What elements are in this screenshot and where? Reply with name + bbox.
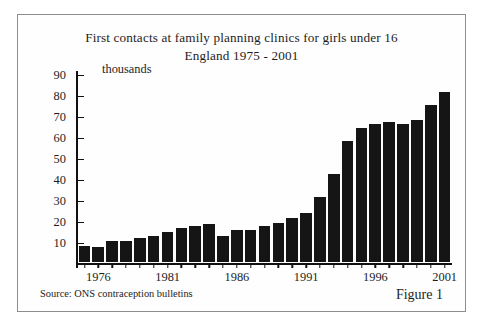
x-axis-tick <box>222 264 223 268</box>
bar <box>411 120 423 263</box>
x-axis-tick-label: 1996 <box>363 270 388 285</box>
bar <box>273 223 285 263</box>
bar <box>328 174 340 262</box>
y-axis-tick-label: 20 <box>54 215 66 230</box>
x-axis-tick-label: 1991 <box>294 270 319 285</box>
bar <box>176 228 188 263</box>
bar <box>203 224 215 263</box>
bar <box>342 141 354 263</box>
y-axis-tick-label: 80 <box>54 89 66 104</box>
x-axis-tick <box>153 264 154 268</box>
source-note: Source: ONS contraception bulletins <box>40 288 193 299</box>
x-axis-tick <box>416 264 417 268</box>
y-axis-tick-label: 70 <box>54 110 66 125</box>
bar <box>245 230 257 263</box>
plot-area: thousands 102030405060708090 19761981198… <box>76 75 452 264</box>
x-axis-tick <box>361 264 362 268</box>
bar <box>134 238 146 262</box>
x-axis-tick-label: 1986 <box>225 270 250 285</box>
bar <box>92 247 104 263</box>
x-axis-tick <box>319 264 320 268</box>
bar <box>120 241 132 262</box>
bar <box>439 92 451 262</box>
x-axis-tick <box>139 264 140 268</box>
x-axis-tick <box>402 264 403 268</box>
bar <box>425 105 437 263</box>
bar <box>286 218 298 262</box>
bar <box>189 226 201 263</box>
chart-title-line-1: First contacts at family planning clinic… <box>18 29 465 47</box>
bar <box>383 122 395 263</box>
y-axis-tick-label: 10 <box>54 236 66 251</box>
y-axis-tick-label: 30 <box>54 194 66 209</box>
bar <box>79 246 91 263</box>
bar <box>369 124 381 263</box>
y-axis-tick-label: 50 <box>54 152 66 167</box>
bar <box>106 241 118 262</box>
x-axis-tick <box>250 264 251 268</box>
x-axis-tick <box>208 264 209 268</box>
x-axis-tick <box>278 264 279 268</box>
bar <box>162 232 174 262</box>
x-axis-tick <box>375 264 376 268</box>
bar <box>397 124 409 263</box>
y-axis-tick-label: 60 <box>54 131 66 146</box>
bar <box>356 128 368 262</box>
bar <box>259 226 271 263</box>
figure-number: Figure 1 <box>396 287 443 303</box>
x-axis-tick <box>167 264 168 268</box>
x-axis-tick <box>430 264 431 268</box>
x-axis-tick <box>236 264 237 268</box>
x-axis-tick <box>305 264 306 268</box>
x-axis-tick <box>98 264 99 268</box>
figure-frame: First contacts at family planning clinic… <box>17 14 466 312</box>
y-axis-tick-label: 90 <box>54 68 66 83</box>
x-axis-tick <box>444 264 445 268</box>
x-axis-tick <box>264 264 265 268</box>
x-axis-tick <box>347 264 348 268</box>
bar <box>231 230 243 263</box>
bar <box>314 197 326 262</box>
x-axis-tick <box>112 264 113 268</box>
bar <box>217 236 229 262</box>
y-axis-tick-label: 40 <box>54 173 66 188</box>
x-axis-tick <box>389 264 390 268</box>
x-axis-tick-label: 2001 <box>432 270 457 285</box>
x-axis-tick-label: 1976 <box>86 270 111 285</box>
bar-series <box>78 73 452 262</box>
bar <box>300 213 312 262</box>
bar <box>148 236 160 262</box>
x-axis-tick <box>333 264 334 268</box>
x-axis-tick <box>125 264 126 268</box>
x-axis-tick <box>195 264 196 268</box>
x-axis-tick <box>181 264 182 268</box>
x-axis-tick <box>292 264 293 268</box>
chart-title: First contacts at family planning clinic… <box>18 29 465 64</box>
x-axis-tick-label: 1981 <box>155 270 180 285</box>
x-axis-tick <box>84 264 85 268</box>
chart-title-line-2: England 1975 - 2001 <box>18 47 465 65</box>
